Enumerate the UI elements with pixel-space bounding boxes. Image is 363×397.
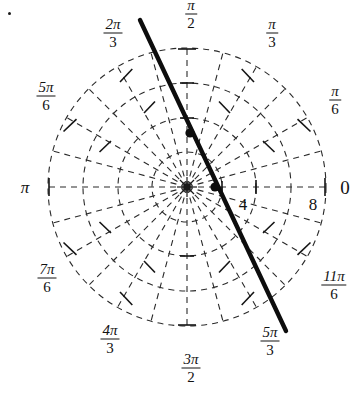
angle-label-11pi-over-6: 11π 6 bbox=[321, 269, 346, 302]
angle-label-0-text: 0 bbox=[340, 177, 350, 198]
angle-label-2pi-over-3: 2π 3 bbox=[103, 17, 122, 50]
fraction-numerator: 2π bbox=[103, 17, 122, 34]
data-point-1 bbox=[185, 128, 194, 137]
fraction-numerator: 11π bbox=[321, 269, 346, 286]
fraction-denominator: 2 bbox=[181, 369, 200, 385]
fraction-denominator: 3 bbox=[260, 342, 279, 358]
spoke-7pi4 bbox=[187, 187, 285, 285]
fraction-denominator: 6 bbox=[37, 279, 56, 295]
tick-r7-angle-5pi6 bbox=[64, 119, 77, 131]
tick-r5-angle-7pi6 bbox=[100, 222, 112, 233]
fraction-denominator: 3 bbox=[103, 34, 122, 50]
fraction-4pi-over-3: 4π 3 bbox=[100, 323, 119, 356]
tick-r5-angle-5pi6 bbox=[100, 141, 112, 152]
spoke-7pi6 bbox=[67, 187, 187, 257]
angle-label-7pi-over-6: 7π 6 bbox=[37, 262, 56, 295]
spoke-5pi12 bbox=[187, 53, 223, 187]
spoke-11pi12 bbox=[53, 151, 187, 187]
tick-r7-angle-11pi6 bbox=[298, 243, 311, 255]
radial-tick-label-4: 4 bbox=[239, 196, 248, 213]
spoke-pi12 bbox=[187, 151, 321, 187]
spoke-7pi12 bbox=[151, 53, 187, 187]
tick-r5-angle-2pi3 bbox=[144, 102, 155, 114]
fraction-numerator: 5π bbox=[260, 325, 279, 342]
fraction-denominator: 6 bbox=[321, 286, 346, 302]
angle-label-5pi-over-3: 5π 3 bbox=[260, 325, 279, 358]
tick-r5-angle-11pi6 bbox=[263, 222, 275, 233]
fraction-3pi-over-2: 3π 2 bbox=[181, 352, 200, 385]
origin-marker bbox=[177, 177, 197, 197]
angle-label-pi: π bbox=[21, 179, 30, 196]
tick-r5-angle-pi6 bbox=[263, 141, 275, 152]
fraction-numerator: 3π bbox=[181, 352, 200, 369]
fraction-numerator: π bbox=[185, 0, 197, 15]
data-point-2 bbox=[210, 182, 219, 191]
angle-label-0: 0 bbox=[340, 178, 350, 197]
spoke-pi4 bbox=[187, 89, 285, 187]
spoke-5pi4 bbox=[89, 187, 187, 285]
fraction-denominator: 6 bbox=[36, 97, 55, 113]
tick-r7-angle-7pi6 bbox=[64, 243, 77, 255]
tick-r7-angle-4pi3 bbox=[120, 292, 132, 305]
tick-r7-angle-5pi3 bbox=[242, 292, 254, 305]
tick-r7-angle-pi3 bbox=[242, 69, 254, 82]
spoke-3pi4 bbox=[89, 89, 187, 187]
spoke-pi3 bbox=[187, 67, 257, 187]
angle-label-pi-over-6: π 6 bbox=[329, 84, 341, 117]
fraction-denominator: 3 bbox=[266, 34, 278, 50]
tick-r5-angle-4pi3 bbox=[144, 261, 155, 273]
fraction-7pi-over-6: 7π 6 bbox=[37, 262, 56, 295]
angle-label-3pi-over-2: 3π 2 bbox=[181, 352, 200, 385]
tick-r5-angle-pi3 bbox=[219, 102, 230, 114]
fraction-numerator: 5π bbox=[36, 80, 55, 97]
spoke-2pi3 bbox=[118, 67, 188, 187]
fraction-denominator: 6 bbox=[329, 101, 341, 117]
fraction-numerator: 7π bbox=[37, 262, 56, 279]
fraction-5pi-over-3: 5π 3 bbox=[260, 325, 279, 358]
fraction-5pi-over-6: 5π 6 bbox=[36, 80, 55, 113]
fraction-denominator: 3 bbox=[100, 340, 119, 356]
scan-artifact-speck bbox=[8, 12, 11, 15]
fraction-pi-over-3: π 3 bbox=[266, 17, 278, 50]
fraction-pi-over-6: π 6 bbox=[329, 84, 341, 117]
fraction-denominator: 2 bbox=[185, 15, 197, 31]
angle-label-pi-over-2: π 2 bbox=[185, 0, 197, 31]
tick-r5-angle-5pi3 bbox=[219, 261, 230, 273]
tick-r7-angle-pi6 bbox=[298, 119, 311, 131]
spoke-13pi12 bbox=[53, 187, 187, 223]
fraction-numerator: π bbox=[329, 84, 341, 101]
angle-label-pi-text: π bbox=[21, 178, 30, 197]
tick-r7-angle-2pi3 bbox=[120, 69, 132, 82]
spoke-4pi3 bbox=[118, 187, 188, 307]
angle-label-pi-over-3: π 3 bbox=[266, 17, 278, 50]
angle-label-5pi-over-6: 5π 6 bbox=[36, 80, 55, 113]
spoke-5pi6 bbox=[67, 118, 187, 188]
angle-label-4pi-over-3: 4π 3 bbox=[100, 323, 119, 356]
fraction-pi-over-2: π 2 bbox=[185, 0, 197, 31]
radial-tick-label-8: 8 bbox=[309, 196, 318, 213]
fraction-numerator: 4π bbox=[100, 323, 119, 340]
polar-plot-figure: 0 π 6 π 3 π 2 2π 3 5π 6 π bbox=[0, 0, 363, 397]
fraction-11pi-over-6: 11π 6 bbox=[321, 269, 346, 302]
spoke-23pi12 bbox=[187, 187, 321, 223]
spoke-19pi12 bbox=[187, 187, 223, 321]
spoke-pi6 bbox=[187, 118, 307, 188]
fraction-numerator: π bbox=[266, 17, 278, 34]
spoke-17pi12 bbox=[151, 187, 187, 321]
fraction-2pi-over-3: 2π 3 bbox=[103, 17, 122, 50]
